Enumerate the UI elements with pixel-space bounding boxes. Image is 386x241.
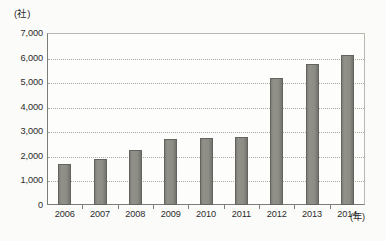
- gridline: [48, 108, 364, 109]
- y-axis-tick-labels: 01,0002,0003,0004,0005,0006,0007,000: [0, 33, 43, 205]
- gridline: [48, 59, 364, 60]
- x-axis-tick-label: 2011: [232, 209, 251, 219]
- bar-chart-figure: (社) 01,0002,0003,0004,0005,0006,0007,000…: [0, 0, 386, 241]
- gridline: [48, 132, 364, 133]
- gridline: [48, 181, 364, 182]
- y-axis-tick-label: 4,000: [21, 102, 44, 112]
- y-axis-tick-label: 1,000: [21, 175, 44, 185]
- plot-area: [47, 33, 365, 205]
- gridline: [48, 157, 364, 158]
- y-axis-tick-label: 6,000: [21, 53, 44, 63]
- gridline: [48, 83, 364, 84]
- y-axis-tick-label: 5,000: [21, 77, 44, 87]
- x-axis-tick-label: 2013: [302, 209, 322, 219]
- x-axis-tick-labels: 200620072008200920102011201220132014: [47, 209, 365, 227]
- x-axis-tick-label: 2008: [125, 209, 145, 219]
- x-axis-tick-label: 2006: [55, 209, 75, 219]
- x-axis-tick-label: 2009: [161, 209, 181, 219]
- y-axis-unit-label: (社): [14, 6, 30, 20]
- y-axis-tick-label: 0: [38, 200, 43, 210]
- y-axis-tick-label: 2,000: [21, 151, 44, 161]
- x-axis-unit-label: (年): [350, 209, 365, 223]
- x-axis-tick-label: 2007: [90, 209, 110, 219]
- y-axis-tick-label: 3,000: [21, 126, 44, 136]
- y-axis-tick-label: 7,000: [21, 28, 44, 38]
- x-axis-tick-label: 2010: [196, 209, 216, 219]
- x-axis-tick-label: 2012: [267, 209, 287, 219]
